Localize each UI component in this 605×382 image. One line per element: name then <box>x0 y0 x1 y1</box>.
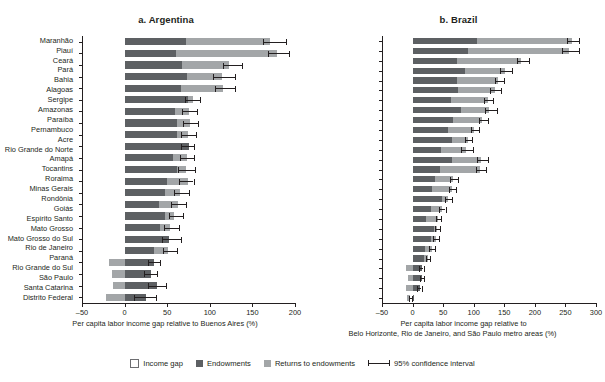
confidence-interval-cap-high <box>579 48 580 54</box>
confidence-interval-cap-high <box>488 157 489 163</box>
category-label: Pará <box>0 66 73 74</box>
x-axis-tick-label: 50 <box>147 308 187 317</box>
x-axis-tick-label: 0 <box>105 308 145 317</box>
confidence-interval-cap-high <box>412 296 413 302</box>
confidence-interval-cap-high <box>160 260 161 266</box>
bar-segment-endowments <box>125 73 187 80</box>
y-axis-tick <box>79 65 82 66</box>
confidence-interval-cap-high <box>493 98 494 104</box>
confidence-interval-cap-high <box>181 237 182 243</box>
y-axis-tick <box>79 286 82 287</box>
confidence-interval-cap-high <box>529 58 530 64</box>
x-axis-tick-label: 100 <box>190 308 230 317</box>
confidence-interval-line <box>181 135 196 136</box>
income-gap-swatch-icon <box>130 359 139 368</box>
confidence-interval-line <box>562 51 579 52</box>
confidence-interval-line <box>148 262 160 263</box>
confidence-interval-cap-low <box>169 213 170 219</box>
confidence-interval-cap-high <box>579 38 580 44</box>
category-label: Santa Catarina <box>0 284 73 292</box>
confidence-interval-line <box>169 216 183 217</box>
confidence-interval-cap-high <box>195 167 196 173</box>
confidence-interval-line <box>134 297 156 298</box>
category-label: Ceará <box>0 57 73 65</box>
confidence-interval-cap-high <box>177 248 178 254</box>
confidence-interval-cap-high <box>179 225 180 231</box>
confidence-interval-line <box>500 71 512 72</box>
x-axis-tick <box>252 304 253 307</box>
figure-root: a. Argentina –50050100150200ChacoCorrien… <box>0 0 605 382</box>
confidence-interval-line <box>182 111 197 112</box>
panel-b-axis-caption-line2: Belo Horizonte, Rio de Janeiro, and São … <box>349 329 557 338</box>
y-axis-tick <box>379 110 382 111</box>
x-axis-tick <box>504 304 505 307</box>
confidence-interval-cap-low <box>449 187 450 193</box>
confidence-interval-line <box>148 286 167 287</box>
bar-segment-endowments <box>413 147 442 153</box>
category-label: Acre <box>0 136 73 144</box>
confidence-interval-cap-low <box>409 296 410 302</box>
confidence-interval-cap-low <box>148 260 149 266</box>
bar-segment-endowments <box>413 216 426 222</box>
confidence-interval-line <box>517 61 529 62</box>
y-axis-tick <box>79 181 82 182</box>
confidence-interval-cap-low <box>182 109 183 115</box>
confidence-interval-cap-high <box>440 226 441 232</box>
confidence-interval-cap-high <box>242 63 243 69</box>
confidence-interval-cap-high <box>488 118 489 124</box>
category-label: Rio Grande do Sul <box>0 264 73 272</box>
confidence-interval-cap-high <box>501 88 502 94</box>
confidence-interval-cap-high <box>157 271 158 277</box>
y-axis-tick <box>379 249 382 250</box>
y-axis-tick <box>379 239 382 240</box>
y-axis-tick <box>379 51 382 52</box>
y-axis-tick <box>79 123 82 124</box>
y-axis-tick <box>79 239 82 240</box>
confidence-interval-cap-low <box>144 271 145 277</box>
panel-a-title: a. Argentina <box>0 14 302 25</box>
bar-segment-endowments <box>125 131 178 138</box>
confidence-interval-cap-low <box>500 68 501 74</box>
x-axis-tick <box>596 304 597 307</box>
bar-segment-endowments <box>413 166 441 172</box>
x-axis-tick <box>295 304 296 307</box>
confidence-interval-cap-high <box>497 108 498 114</box>
confidence-interval-cap-low <box>436 216 437 222</box>
bar-segment-returns <box>451 97 488 103</box>
bar-segment-endowments <box>413 157 453 163</box>
panel-b-axis-caption: Per capita labor income gap relative to … <box>300 319 605 339</box>
confidence-interval-cap-high <box>196 132 197 138</box>
x-axis-tick <box>535 304 536 307</box>
confidence-interval-cap-high <box>472 137 473 143</box>
y-axis-tick <box>379 160 382 161</box>
category-label: Bahia <box>0 76 73 84</box>
bar-segment-endowments <box>125 154 174 161</box>
confidence-interval-cap-high <box>458 177 459 183</box>
y-axis-tick <box>379 199 382 200</box>
category-label: Mato Grosso do Sul <box>0 235 73 243</box>
confidence-interval-cap-low <box>465 137 466 143</box>
confidence-interval-cap-low <box>174 190 175 196</box>
confidence-interval-cap-high <box>189 190 190 196</box>
confidence-interval-line <box>476 170 486 171</box>
confidence-interval-cap-low <box>479 118 480 124</box>
confidence-interval-cap-high <box>439 236 440 242</box>
confidence-interval-cap-low <box>435 226 436 232</box>
category-label: Paraná <box>0 254 73 262</box>
confidence-interval-line <box>213 77 235 78</box>
bar-segment-endowments <box>125 119 178 126</box>
y-axis-tick <box>79 100 82 101</box>
y-axis-tick <box>379 81 382 82</box>
y-axis-tick <box>79 42 82 43</box>
y-axis-tick <box>379 61 382 62</box>
confidence-interval-line <box>180 158 194 159</box>
bar-segment-endowments <box>413 68 465 74</box>
confidence-interval-cap-low <box>429 246 430 252</box>
bar-segment-returns <box>440 166 480 172</box>
confidence-interval-line <box>171 204 186 205</box>
confidence-interval-cap-low <box>134 295 135 301</box>
bar-segment-endowments <box>413 206 431 212</box>
category-label: Piauí <box>0 47 73 55</box>
y-axis-tick <box>379 71 382 72</box>
y-axis-line <box>382 36 383 303</box>
